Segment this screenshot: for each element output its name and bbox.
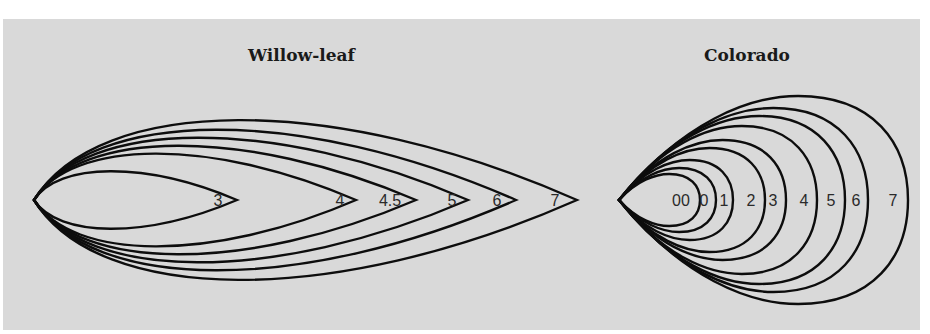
willow-size-label: 7 bbox=[551, 192, 560, 209]
blade-shapes-diagram: 344.5567 0001234567 bbox=[0, 0, 930, 334]
colorado-size-label: 0 bbox=[700, 192, 709, 209]
willow-blade-outline bbox=[34, 154, 356, 247]
colorado-blades: 0001234567 bbox=[619, 96, 908, 304]
colorado-size-label: 3 bbox=[769, 192, 778, 209]
willow-size-label: 6 bbox=[493, 192, 502, 209]
colorado-size-label: 6 bbox=[852, 192, 861, 209]
colorado-size-label: 4 bbox=[800, 192, 809, 209]
willow-leaf-blades: 344.5567 bbox=[34, 120, 577, 280]
colorado-size-label: 1 bbox=[720, 192, 729, 209]
willow-blade-outline bbox=[34, 171, 237, 229]
willow-size-label: 4 bbox=[336, 192, 345, 209]
colorado-size-label: 7 bbox=[889, 192, 898, 209]
colorado-size-label: 00 bbox=[672, 192, 690, 209]
willow-size-label: 3 bbox=[214, 192, 223, 209]
colorado-blade-outline bbox=[619, 148, 765, 252]
willow-size-label: 5 bbox=[448, 192, 457, 209]
colorado-size-label: 5 bbox=[827, 192, 836, 209]
willow-size-label: 4.5 bbox=[379, 192, 401, 209]
colorado-size-label: 2 bbox=[747, 192, 756, 209]
